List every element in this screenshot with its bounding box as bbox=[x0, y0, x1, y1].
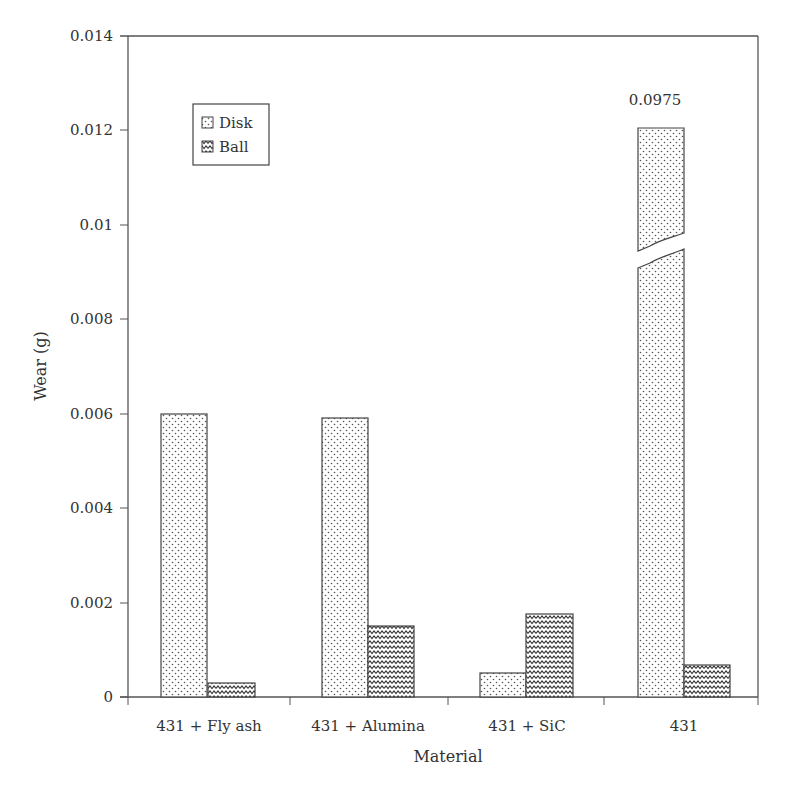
x-axis-title: Material bbox=[413, 747, 482, 766]
y-tick-label: 0.002 bbox=[70, 594, 113, 612]
legend-disk-label: Disk bbox=[219, 114, 254, 132]
bar-disk-alumina bbox=[322, 418, 368, 697]
x-tick-label: 431 bbox=[670, 717, 699, 735]
legend: Disk Ball bbox=[193, 104, 269, 165]
y-tick-label: 0.004 bbox=[70, 499, 113, 517]
y-tick-label: 0.01 bbox=[80, 216, 113, 234]
legend-ball-label: Ball bbox=[219, 138, 249, 156]
legend-ball-swatch bbox=[202, 141, 213, 152]
y-tick-label: 0.014 bbox=[70, 27, 113, 45]
y-tick-label: 0.012 bbox=[70, 121, 113, 139]
bar-disk-431-upper bbox=[638, 128, 684, 251]
x-tick-label: 431 + Fly ash bbox=[156, 717, 262, 735]
bar-ball-alumina bbox=[368, 626, 414, 697]
bar-ball-fly-ash bbox=[208, 683, 255, 697]
bar-chart: 0 0.002 0.004 0.006 0.008 0.01 0.012 0.0… bbox=[0, 0, 788, 788]
y-tick-label: 0.006 bbox=[70, 405, 113, 423]
legend-disk-swatch bbox=[202, 117, 213, 128]
bar-disk-431-lower bbox=[638, 249, 684, 697]
y-axis-title: Wear (g) bbox=[31, 331, 50, 401]
bar-disk-sic bbox=[480, 673, 526, 697]
y-axis: 0 0.002 0.004 0.006 0.008 0.01 0.012 0.0… bbox=[31, 27, 128, 706]
bar-disk-fly-ash bbox=[161, 414, 207, 697]
break-value-label: 0.0975 bbox=[629, 91, 682, 109]
bars bbox=[161, 128, 730, 697]
x-tick-label: 431 + Alumina bbox=[311, 717, 425, 735]
x-axis: 431 + Fly ash 431 + Alumina 431 + SiC 43… bbox=[128, 697, 758, 766]
y-tick-label: 0.008 bbox=[70, 310, 113, 328]
x-tick-label: 431 + SiC bbox=[488, 717, 565, 735]
bar-ball-sic bbox=[526, 614, 573, 697]
bar-ball-431 bbox=[684, 665, 730, 697]
y-tick-label: 0 bbox=[103, 688, 113, 706]
